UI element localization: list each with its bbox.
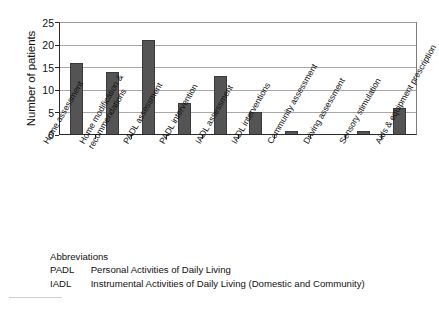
y-axis-title: Number of patients <box>22 22 40 135</box>
bar <box>357 131 370 136</box>
abbreviations-heading: Abbreviations <box>50 250 365 263</box>
gridline <box>59 45 417 46</box>
abbreviation-key: IADL <box>50 277 88 290</box>
scan-artifact-line <box>9 297 62 298</box>
y-tick-label: 10 <box>36 85 54 95</box>
y-tick-label: 25 <box>36 18 54 28</box>
abbreviation-row: IADL Instrumental Activities of Daily Li… <box>50 277 365 290</box>
y-tick-label: 15 <box>36 63 54 73</box>
y-tick-label: 20 <box>36 40 54 50</box>
abbreviation-definition: Personal Activities of Daily Living <box>91 264 231 275</box>
y-tick-label: 5 <box>36 108 54 118</box>
abbreviation-key: PADL <box>50 263 88 276</box>
gridline <box>59 67 417 68</box>
abbreviations-block: Abbreviations PADL Personal Activities o… <box>50 250 365 290</box>
abbreviation-definition: Instrumental Activities of Daily Living … <box>91 278 365 289</box>
bar <box>285 131 298 136</box>
abbreviation-row: PADL Personal Activities of Daily Living <box>50 263 365 276</box>
